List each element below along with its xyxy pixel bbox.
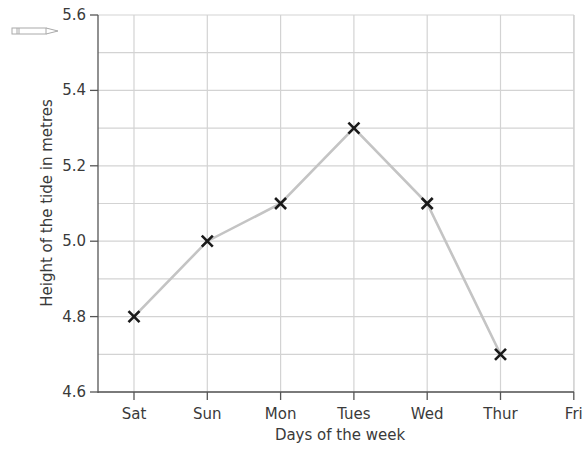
y-tick-label: 5.4 [62, 81, 86, 99]
tick-labels: 4.64.85.05.25.45.6SatSunMonTuesWedThurFr… [62, 6, 583, 423]
y-axis-label: Height of the tide in metres [38, 99, 56, 307]
x-axis-label: Days of the week [275, 426, 406, 444]
y-tick-label: 5.0 [62, 232, 86, 250]
x-tick-label: Thur [482, 405, 518, 423]
x-tick-label: Sun [193, 405, 222, 423]
x-tick-label: Wed [411, 405, 444, 423]
y-tick-label: 5.6 [62, 6, 86, 24]
x-tick-label: Sat [122, 405, 147, 423]
y-tick-label: 5.2 [62, 157, 86, 175]
y-tick-label: 4.8 [62, 308, 86, 326]
grid-lines [98, 15, 574, 392]
x-tick-label: Mon [265, 405, 297, 423]
x-tick-label: Fri [565, 405, 583, 423]
pencil-icon [12, 28, 58, 34]
tide-chart: 4.64.85.05.25.45.6SatSunMonTuesWedThurFr… [0, 0, 586, 454]
x-tick-label: Tues [336, 405, 371, 423]
y-tick-label: 4.6 [62, 383, 86, 401]
